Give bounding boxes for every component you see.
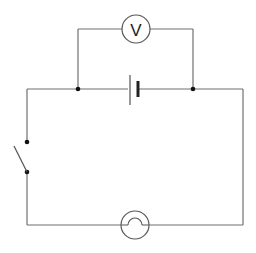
voltmeter-label: V (130, 21, 142, 40)
junction-dot-left (76, 87, 81, 92)
junction-dot-right (191, 87, 196, 92)
switch-blade (14, 146, 27, 172)
voltmeter: V (122, 15, 150, 43)
main-loop-wires (27, 89, 243, 225)
switch (14, 140, 29, 175)
switch-contact-top (25, 140, 30, 145)
circuit-diagram: V (0, 0, 256, 253)
cell (130, 75, 138, 105)
lamp (121, 211, 149, 239)
voltmeter-branch: V (78, 15, 193, 89)
